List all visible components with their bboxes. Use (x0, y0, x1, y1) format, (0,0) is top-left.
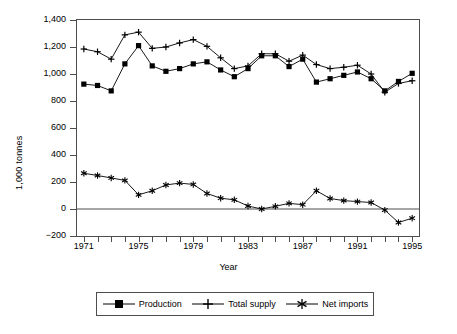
x-axis-tick (330, 237, 331, 242)
y-axis-tick-label: 800 (22, 96, 66, 105)
x-axis-tick (385, 237, 386, 242)
x-axis-tick-label: 1995 (392, 241, 432, 251)
x-axis-tick (275, 237, 276, 242)
legend-label-total-supply: Total supply (228, 299, 276, 309)
legend-label-production: Production (139, 299, 182, 309)
x-axis-tick-label: 1975 (119, 241, 159, 251)
y-axis-tick-label: 600 (22, 123, 66, 132)
y-axis-tick-label: −200 (22, 231, 66, 240)
chart-figure: 1,000 tonnes −20002004006008001,0001,200… (0, 0, 457, 334)
series-canvas (77, 20, 419, 236)
x-axis-tick (166, 237, 167, 242)
y-axis-title: 1,000 tonnes (14, 0, 24, 70)
x-axis-tick-label: 1991 (337, 241, 377, 251)
y-axis-tick-label: 1,400 (22, 15, 66, 24)
x-axis-tick-label: 1983 (228, 241, 268, 251)
legend-item-net-imports[interactable]: Net imports (285, 298, 368, 310)
y-axis-tick-label: 1,000 (22, 69, 66, 78)
y-axis-tick-label: 1,200 (22, 42, 66, 51)
series-net-imports (81, 170, 415, 226)
plot-area (76, 19, 420, 237)
y-axis-tick-label: 400 (22, 150, 66, 159)
filled-square-icon (102, 298, 136, 310)
asterisk-icon (285, 298, 319, 310)
x-axis-title: Year (0, 262, 457, 272)
y-axis-tick-label: 0 (22, 204, 66, 213)
x-axis-title-text: Year (219, 262, 237, 272)
series-total-supply (81, 29, 416, 95)
x-axis-tick (111, 237, 112, 242)
y-axis-tick-label: 200 (22, 177, 66, 186)
chart-legend: Production Total supply Net imports (96, 292, 374, 316)
legend-label-net-imports: Net imports (322, 299, 368, 309)
x-axis-tick-label: 1979 (173, 241, 213, 251)
x-axis-tick (221, 237, 222, 242)
legend-item-total-supply[interactable]: Total supply (191, 298, 276, 310)
plus-icon (191, 298, 225, 310)
x-axis-tick-label: 1971 (64, 241, 104, 251)
x-axis-tick-label: 1987 (283, 241, 323, 251)
legend-item-production[interactable]: Production (102, 298, 182, 310)
